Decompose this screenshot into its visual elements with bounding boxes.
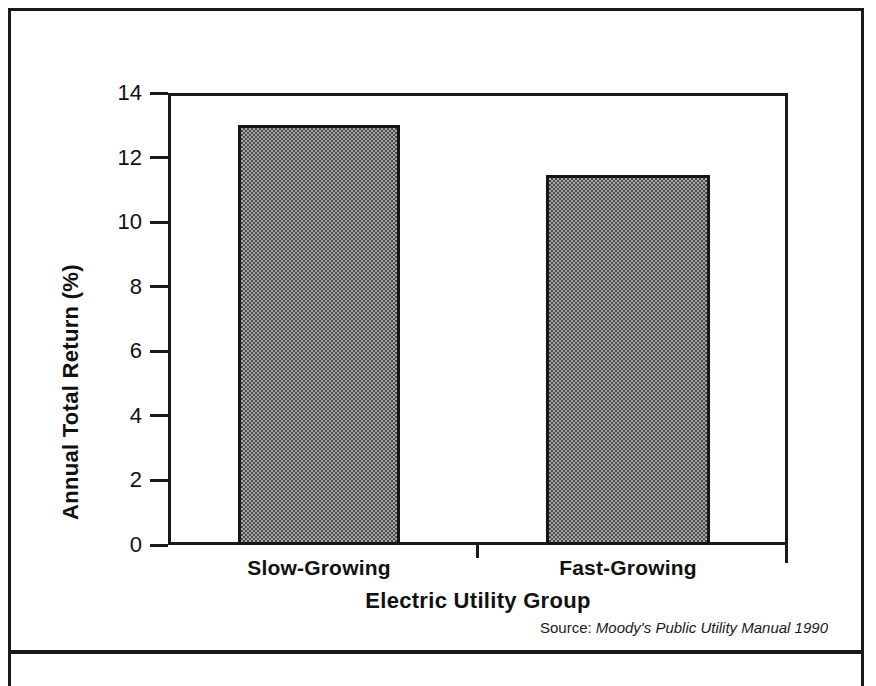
y-axis-title: Annual Total Return (%) <box>58 264 84 520</box>
y-axis-tick-label: 6 <box>82 340 142 362</box>
y-axis-tick <box>150 221 168 224</box>
y-axis-tick <box>150 350 168 353</box>
y-axis-tick <box>150 544 168 547</box>
y-axis-tick-label: 4 <box>82 405 142 427</box>
source-prefix: Source: <box>540 619 592 636</box>
x-axis-title: Electric Utility Group <box>168 588 788 614</box>
bar-fast-growing <box>546 175 710 545</box>
x-axis-tick <box>476 545 479 558</box>
x-axis-category-label: Slow-Growing <box>209 556 429 580</box>
right-spine-extension <box>785 545 788 563</box>
y-axis-tick <box>150 285 168 288</box>
y-axis-tick-label: 0 <box>82 534 142 556</box>
source-reference: Moody's Public Utility Manual 1990 <box>596 619 828 636</box>
x-axis-category-label: Fast-Growing <box>518 556 738 580</box>
y-axis-tick-label: 8 <box>82 276 142 298</box>
y-axis-tick <box>150 479 168 482</box>
y-axis-tick-label: 10 <box>82 211 142 233</box>
bar-slow-growing <box>238 125 400 545</box>
y-axis-tick <box>150 414 168 417</box>
y-axis-tick <box>150 92 168 95</box>
y-axis-tick <box>150 156 168 159</box>
y-axis-tick-label: 14 <box>82 82 142 104</box>
source-note: Source: Moody's Public Utility Manual 19… <box>200 619 828 636</box>
y-axis-tick-label: 2 <box>82 469 142 491</box>
y-axis-tick-label: 12 <box>82 147 142 169</box>
